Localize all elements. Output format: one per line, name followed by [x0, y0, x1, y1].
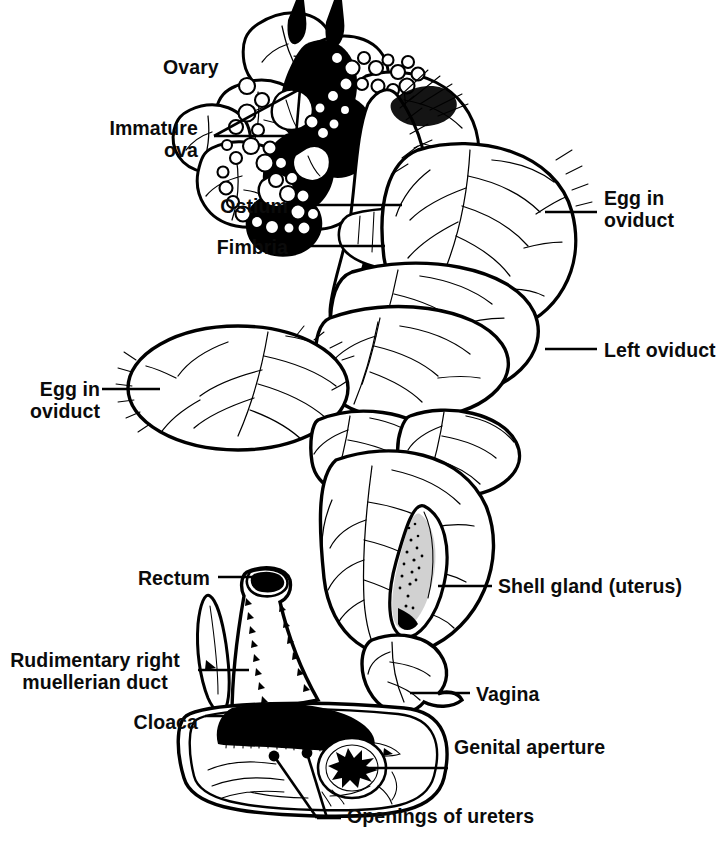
- label-rectum: Rectum: [30, 568, 210, 590]
- magnum-coil: [316, 263, 539, 419]
- label-immature-ova: Immatureova: [8, 118, 198, 162]
- label-ovary: Ovary: [163, 57, 219, 79]
- label-egg-in-oviduct-right: Egg inoviduct: [604, 188, 694, 232]
- label-rudimentary-duct: Rudimentary rightmuellerian duct: [0, 650, 190, 694]
- cloaca-body: [178, 703, 447, 816]
- label-genital-aperture: Genital aperture: [454, 737, 605, 759]
- label-egg-in-oviduct-left-line1: Egg in: [40, 378, 100, 400]
- label-egg-in-oviduct-right-line1: Egg in: [604, 187, 664, 209]
- label-immature-ova-line1: Immature: [109, 117, 198, 139]
- label-immature-ova-line2: ova: [164, 139, 198, 161]
- label-openings-of-ureters: Openings of ureters: [347, 806, 534, 828]
- label-cloaca: Cloaca: [40, 712, 198, 734]
- vagina-body: [362, 635, 462, 713]
- label-fimbria: Fimbria: [98, 237, 288, 259]
- label-shell-gland: Shell gland (uterus): [498, 576, 682, 598]
- label-egg-in-oviduct-left-line2: oviduct: [30, 400, 100, 422]
- label-ostium: Ostium: [98, 196, 288, 218]
- label-egg-in-oviduct-left: Egg inoviduct: [0, 379, 100, 423]
- label-egg-in-oviduct-right-line2: oviduct: [604, 209, 674, 231]
- label-rudimentary-duct-line2: muellerian duct: [22, 671, 168, 693]
- rectum-body: [232, 568, 318, 716]
- label-left-oviduct: Left oviduct: [604, 340, 716, 362]
- label-rudimentary-duct-line1: Rudimentary right: [10, 649, 180, 671]
- rudimentary-duct-body: [197, 595, 229, 712]
- shell-gland-body: [320, 451, 493, 658]
- label-vagina: Vagina: [476, 684, 539, 706]
